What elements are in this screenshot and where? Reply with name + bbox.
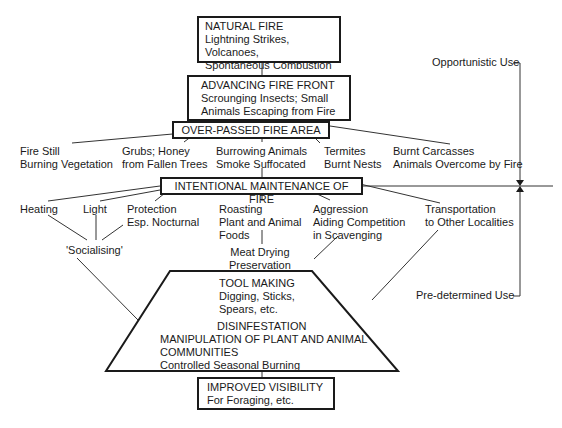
- item-line: Burning Vegetation: [20, 158, 113, 171]
- predetermined-use-label: Pre-determined Use: [416, 289, 514, 302]
- improved-visibility-box: IMPROVED VISIBILITY For Foraging, etc.: [197, 377, 335, 410]
- natural-fire-line-1: Lightning Strikes, Volcanoes,: [205, 33, 333, 59]
- advancing-fire-front-box: ADVANCING FIRE FRONT Scrounging Insects;…: [187, 75, 351, 121]
- item-line: to Other Localities: [425, 216, 514, 229]
- over-passed-title: OVER-PASSED FIRE AREA: [178, 124, 324, 137]
- item-light: Light: [83, 203, 107, 216]
- manipulation-title: MANIPULATION OF PLANT AND ANIMAL: [160, 333, 367, 346]
- item-line: Plant and Animal: [219, 216, 302, 229]
- item-line: Termites: [324, 145, 381, 158]
- item-line: Roasting: [219, 203, 302, 216]
- socialising-label: 'Socialising': [66, 244, 123, 257]
- item-line: Aiding Competition: [313, 216, 405, 229]
- item-line: Esp. Nocturnal: [127, 216, 199, 229]
- over-passed-fire-area-box: OVER-PASSED FIRE AREA: [172, 121, 330, 139]
- tool-making-title: TOOL MAKING: [219, 277, 295, 290]
- item-line: Meat Drying: [229, 246, 291, 259]
- item-aggression: Aggression Aiding Competition in Scaveng…: [313, 203, 405, 242]
- item-line: Burnt Nests: [324, 158, 381, 171]
- meat-drying-label: Meat Drying Preservation: [229, 246, 291, 272]
- item-heating: Heating: [20, 203, 58, 216]
- item-line: Aggression: [313, 203, 405, 216]
- item-transportation: Transportation to Other Localities: [425, 203, 514, 229]
- item-line: Smoke Suffocated: [216, 158, 307, 171]
- item-burrowing-animals: Burrowing Animals Smoke Suffocated: [216, 145, 307, 171]
- improved-line-1: For Foraging, etc.: [207, 394, 327, 407]
- item-line: Digging, Sticks,: [219, 290, 295, 303]
- item-roasting: Roasting Plant and Animal Foods: [219, 203, 302, 242]
- manipulation-sub: Controlled Seasonal Burning: [160, 359, 367, 372]
- item-termites: Termites Burnt Nests: [324, 145, 381, 171]
- item-line: Animals Overcome by Fire: [393, 158, 523, 171]
- item-line: Preservation: [229, 259, 291, 272]
- item-line: Foods: [219, 229, 302, 242]
- advancing-line-1: Scrounging Insects; Small: [201, 92, 343, 105]
- item-line: Burrowing Animals: [216, 145, 307, 158]
- item-line: Fire Still: [20, 145, 113, 158]
- item-line: Transportation: [425, 203, 514, 216]
- item-line: Spears, etc.: [219, 303, 295, 316]
- item-burnt-carcasses: Burnt Carcasses Animals Overcome by Fire: [393, 145, 523, 171]
- tool-making: TOOL MAKING Digging, Sticks, Spears, etc…: [219, 277, 295, 316]
- advancing-line-2: Animals Escaping from Fire: [201, 105, 343, 118]
- item-line: Heating: [20, 203, 58, 216]
- natural-fire-box: NATURAL FIRE Lightning Strikes, Volcanoe…: [197, 16, 341, 63]
- item-protection: Protection Esp. Nocturnal: [127, 203, 199, 229]
- intentional-maintenance-box: INTENTIONAL MAINTENANCE OF FIRE: [160, 177, 363, 195]
- item-line: in Scavenging: [313, 229, 405, 242]
- item-grubs-honey: Grubs; Honey from Fallen Trees: [122, 145, 208, 171]
- item-line: from Fallen Trees: [122, 158, 208, 171]
- advancing-title: ADVANCING FIRE FRONT: [201, 79, 343, 92]
- natural-fire-line-2: Spontaneous Combustion: [205, 59, 333, 72]
- item-line: Light: [83, 203, 107, 216]
- item-fire-still: Fire Still Burning Vegetation: [20, 145, 113, 171]
- improved-title: IMPROVED VISIBILITY: [207, 381, 327, 394]
- manipulation: MANIPULATION OF PLANT AND ANIMAL COMMUNI…: [160, 333, 367, 372]
- item-line: Burnt Carcasses: [393, 145, 523, 158]
- manipulation-title: COMMUNITIES: [160, 346, 367, 359]
- natural-fire-title: NATURAL FIRE: [205, 20, 333, 33]
- item-line: Protection: [127, 203, 199, 216]
- opportunistic-use-label: Opportunistic Use: [432, 56, 519, 69]
- disinfestation: DISINFESTATION: [217, 320, 306, 333]
- item-line: Grubs; Honey: [122, 145, 208, 158]
